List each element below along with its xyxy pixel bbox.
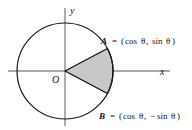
- point-b-cos-theta: θ: [139, 111, 143, 121]
- figure-container: y x O A = ( cos θ , sin θ ) B = ( cos θ …: [0, 0, 192, 130]
- point-b-sin-theta: θ: [171, 111, 175, 121]
- x-axis-label: x: [159, 66, 165, 77]
- point-b-label-group: B = ( cos θ , − sin θ ): [98, 111, 180, 121]
- origin-label: O: [52, 74, 59, 85]
- point-b-minus-sign: −: [150, 111, 155, 121]
- point-b-cos-fn: cos: [123, 111, 135, 121]
- point-b-sin-fn: sin: [157, 111, 168, 121]
- point-b-open-paren: (: [119, 111, 122, 121]
- point-b-equals: =: [110, 111, 115, 121]
- point-a-cos-theta: θ: [141, 36, 145, 46]
- point-a-sin-fn: sin: [152, 36, 163, 46]
- point-a-equals: =: [112, 36, 117, 46]
- point-a-label-group: A = ( cos θ , sin θ ): [100, 36, 175, 46]
- shaded-sector: [65, 49, 113, 94]
- point-a-sin-theta: θ: [166, 36, 170, 46]
- point-b-name: B: [98, 111, 105, 121]
- point-a-comma: ,: [146, 36, 148, 46]
- point-b-close-paren: ): [177, 111, 180, 121]
- point-a-cos-fn: cos: [125, 36, 137, 46]
- y-axis-label: y: [69, 5, 75, 16]
- unit-circle-diagram: y x O A = ( cos θ , sin θ ) B = ( cos θ …: [0, 0, 192, 130]
- point-b-comma: ,: [144, 111, 146, 121]
- point-a-close-paren: ): [172, 36, 175, 46]
- point-a-open-paren: (: [121, 36, 124, 46]
- point-a-name: A: [100, 36, 107, 46]
